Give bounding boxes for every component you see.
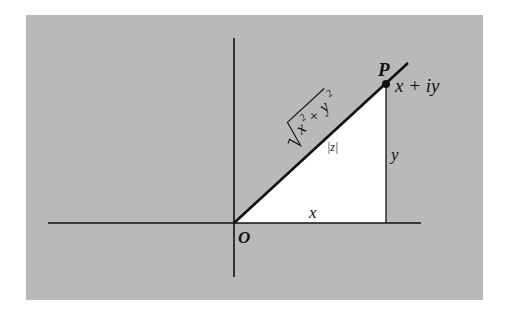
modulus-label: |z| [327,140,338,154]
complex-plane-diagram: P x + iy O x y |z| x 2 + y 2 [0,0,509,318]
horizontal-leg-label: x [308,203,317,222]
point-value-label: x + iy [394,75,440,96]
origin-label: O [238,228,250,247]
point-label: P [377,59,390,80]
vertical-leg-label: y [389,145,399,164]
point-p-marker [382,80,390,88]
background-panel [26,15,483,300]
